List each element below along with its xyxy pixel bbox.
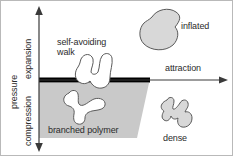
y-axis-upper-direction-label: expansion	[23, 39, 33, 79]
y-axis-lower-direction-label: compression	[23, 96, 33, 146]
x-axis-label: attraction	[165, 63, 201, 73]
inflated-label: inflated	[181, 21, 209, 31]
dense-blob	[161, 97, 192, 127]
horizontal-axis-arrow-right	[219, 76, 228, 83]
branched-polymer-label: branched polymer	[48, 125, 118, 135]
y-axis-label: pressure	[9, 75, 19, 109]
inflated-blob	[140, 9, 180, 50]
self-avoiding-walk-label-line1: self-avoiding	[57, 37, 106, 47]
phase-diagram-figure: pressure expansion compression attractio…	[0, 0, 233, 156]
dense-label: dense	[163, 133, 187, 143]
vertical-axis-arrow-down	[35, 143, 43, 152]
self-avoiding-walk-blob	[75, 54, 112, 89]
vertical-axis-arrow-up	[35, 6, 43, 15]
self-avoiding-walk-label-line2: walk	[57, 47, 75, 57]
